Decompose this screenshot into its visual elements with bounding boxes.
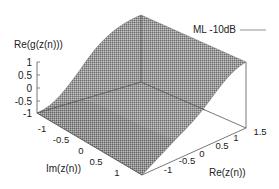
x-tick-0: 0: [199, 148, 204, 159]
x-tick-1.5: 1.5: [253, 126, 266, 137]
z-axis-label: Re(g(z(n))): [14, 39, 63, 50]
surface-plot: 1 0.5 0 -0.5 -1 Re(g(z(n))) -1 -0.5 0 0.…: [0, 0, 279, 189]
x-tick-neg1: -1: [164, 164, 172, 175]
z-tick-0: 0: [26, 83, 32, 94]
z-tick-neg0.5: -0.5: [15, 96, 33, 107]
legend-label: ML -10dB: [193, 24, 236, 35]
legend: ML -10dB: [193, 24, 266, 35]
y-tick-neg1: -1: [38, 123, 46, 134]
x-tick-1: 1: [233, 132, 238, 143]
y-tick-neg0.5: -0.5: [53, 134, 69, 145]
y-tick-0: 0: [78, 145, 83, 156]
x-axis-label: Re(z(n)): [209, 167, 246, 178]
y-tick-1: 1: [114, 167, 119, 178]
z-tick-neg1: -1: [23, 108, 32, 119]
x-tick-0.5: 0.5: [215, 140, 228, 151]
y-axis-label: Im(z(n)): [46, 163, 81, 174]
z-tick-0.5: 0.5: [18, 70, 32, 81]
x-tick-neg0.5: -0.5: [179, 155, 195, 166]
z-tick-1: 1: [26, 57, 32, 68]
y-tick-0.5: 0.5: [89, 156, 102, 167]
